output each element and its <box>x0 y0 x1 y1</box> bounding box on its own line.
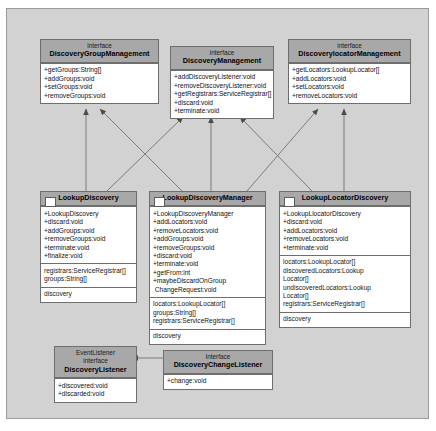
operation: +removeLocators:void <box>153 227 262 235</box>
class-node-discovery-change-listener[interactable]: interface DiscoveryChangeListener +chang… <box>163 350 273 390</box>
operation: +terminate:void <box>153 260 262 268</box>
operation: +LookupDiscovery <box>44 210 133 218</box>
attributes-compartment: registrars:ServiceRegistrar[] groups:Str… <box>41 263 136 286</box>
operation: +discarded:void <box>58 390 133 398</box>
operation: +change:void <box>167 377 269 385</box>
operations-compartment: +LookupDiscovery +discard:void +addGroup… <box>41 206 136 263</box>
operation: +setLocators:void <box>292 83 407 91</box>
operations-compartment: +change:void <box>164 374 272 389</box>
operation: +maybeDiscardOnGroup ChangeRequest:void <box>153 277 262 294</box>
attributes-compartment: locators:LookupLocator[] groups:String[]… <box>150 297 265 329</box>
operation: +terminate:void <box>283 244 407 252</box>
operations-compartment: +LookupDiscoveryManager +addLocators:voi… <box>150 206 265 297</box>
node-header: LookupDiscoveryManager <box>150 192 265 206</box>
operation: +removeLocators:void <box>292 92 407 100</box>
operation: +getGroups:String[] <box>44 66 155 74</box>
operations-compartment: +getLocators:LookupLocator[] +addLocator… <box>289 63 410 103</box>
class-name: LookupLocatorDiscovery <box>282 194 408 202</box>
class-name: DiscoveryGroupManagement <box>43 50 156 58</box>
class-icon <box>284 197 295 207</box>
attribute: discovery <box>283 315 407 323</box>
attributes-compartment: locators:LookupLocator[] discoveredLocat… <box>280 255 410 312</box>
class-node-discovery-listener[interactable]: EventListener interface DiscoveryListene… <box>54 346 137 403</box>
operation: +addLocators:void <box>153 218 262 226</box>
operations-compartment: +addDiscoveryListener:void +removeDiscov… <box>171 70 273 119</box>
operations-compartment: +LookupLlocatorDiscovery +discard:void +… <box>280 206 410 255</box>
attributes-compartment: discovery <box>41 287 136 302</box>
attributes-compartment: discovery <box>280 312 410 327</box>
operation: +getFrom:int <box>153 269 262 277</box>
class-icon <box>154 197 165 207</box>
supertype-label: EventListener <box>57 349 134 357</box>
operation: +finalize:void <box>44 252 133 260</box>
node-header: LookupLocatorDiscovery <box>280 192 410 206</box>
operation: +terminate:void <box>44 244 133 252</box>
operation: +setGroups:void <box>44 83 155 91</box>
operation: +removeGroups:void <box>44 235 133 243</box>
operation: +discard:void <box>153 252 262 260</box>
node-header: interface DiscoveryChangeListener <box>164 351 272 374</box>
operation: +addGroups:void <box>153 235 262 243</box>
operations-compartment: +getGroups:String[] +addGroups:void +set… <box>41 63 158 103</box>
operation: +addGroups:void <box>44 227 133 235</box>
class-node-lookup-locator-discovery[interactable]: LookupLocatorDiscovery +LookupLlocatorDi… <box>279 191 411 328</box>
class-node-discovery-locator-management[interactable]: interface DiscoverylocatorManagement +ge… <box>288 39 411 104</box>
operation: +getLocators:LookupLocator[] <box>292 66 407 74</box>
operation: +discard:void <box>174 99 270 107</box>
class-name: DiscoverylocatorManagement <box>291 50 408 58</box>
operation: +discard:void <box>283 218 407 226</box>
operation: +discard:void <box>44 218 133 226</box>
operation: +addDiscoveryListener:void <box>174 73 270 81</box>
operation: +addLocators:void <box>292 75 407 83</box>
class-name: DiscoveryListener <box>57 366 134 374</box>
operation: +addLocators:void <box>283 227 407 235</box>
node-header: interface DiscoveryGroupManagement <box>41 40 158 63</box>
operation: +discovered:void <box>58 382 133 390</box>
edge-ldm-dlm <box>247 109 318 191</box>
class-node-lookup-discovery[interactable]: LookupDiscovery +LookupDiscovery +discar… <box>40 191 137 303</box>
attribute: discovery <box>153 332 262 340</box>
diagram-canvas: interface DiscoveryGroupManagement +getG… <box>6 8 429 419</box>
operations-compartment: +discovered:void +discarded:void <box>55 378 136 401</box>
attribute: registrars:ServiceRegistrar[] groups:Str… <box>44 267 133 284</box>
operation: +terminate:void <box>174 107 270 115</box>
operation: +addGroups:void <box>44 75 155 83</box>
operation: +getRegistrars:ServiceRegistrar[] <box>174 90 270 98</box>
operation: +removeLocators:void <box>283 235 407 243</box>
class-name: LookupDiscoveryManager <box>152 194 263 202</box>
node-header: LookupDiscovery <box>41 192 136 206</box>
operation: +removeGroups:void <box>153 244 262 252</box>
class-node-discovery-group-management[interactable]: interface DiscoveryGroupManagement +getG… <box>40 39 159 104</box>
edge-ldm-dgm <box>100 109 182 191</box>
class-name: DiscoveryChangeListener <box>166 361 270 369</box>
attribute: locators:LookupLocator[] groups:String[]… <box>153 300 262 325</box>
class-name: LookupDiscovery <box>43 194 134 202</box>
node-header: EventListener interface DiscoveryListene… <box>55 347 136 378</box>
operation: +LookupDiscoveryManager <box>153 210 262 218</box>
attributes-compartment: discovery <box>150 329 265 344</box>
class-node-discovery-management[interactable]: interface DiscoveryManagement +addDiscov… <box>170 46 274 119</box>
class-icon <box>45 197 56 207</box>
class-name: DiscoveryManagement <box>173 57 271 65</box>
operation: +LookupLlocatorDiscovery <box>283 210 407 218</box>
attribute: discovery <box>44 290 133 298</box>
node-header: interface DiscoverylocatorManagement <box>289 40 410 63</box>
operation: +removeGroups:void <box>44 92 155 100</box>
node-header: interface DiscoveryManagement <box>171 47 273 70</box>
operation: +removeDiscoveryListener:void <box>174 82 270 90</box>
attribute: locators:LookupLocator[] discoveredLocat… <box>283 258 407 308</box>
class-node-lookup-discovery-manager[interactable]: LookupDiscoveryManager +LookupDiscoveryM… <box>149 191 266 345</box>
